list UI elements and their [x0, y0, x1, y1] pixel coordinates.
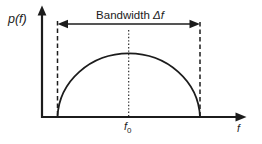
bandwidth-arrowhead-right-icon	[190, 20, 201, 29]
y-axis-arrowhead-icon	[38, 6, 47, 16]
diagram-canvas: p(f) Bandwidth Δf f0 f	[0, 0, 262, 144]
center-frequency-label: f0	[124, 120, 132, 135]
x-axis-arrowhead-icon	[236, 112, 247, 121]
x-axis-label: f	[237, 122, 241, 134]
bandwidth-spectrum-diagram: p(f) Bandwidth Δf f0 f	[0, 0, 262, 144]
bandwidth-label: Bandwidth Δf	[96, 9, 166, 21]
center-frequency-subscript: 0	[127, 126, 132, 135]
bandwidth-arrowhead-left-icon	[58, 20, 69, 29]
bandwidth-label-symbol: Δf	[152, 9, 166, 21]
y-axis-label: p(f)	[7, 12, 27, 26]
bandwidth-label-text: Bandwidth	[96, 9, 153, 21]
